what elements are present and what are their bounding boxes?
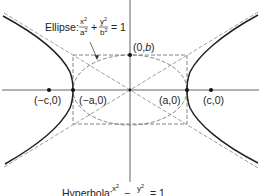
point-pos-c — [209, 88, 213, 92]
label-pos-a: (a,0) — [159, 94, 181, 106]
hyperbola-minus: − — [124, 187, 130, 196]
ellipse-pointer-arrowhead — [95, 55, 100, 60]
point-neg-a — [71, 88, 75, 92]
hyperbola-ellipse-diagram: (−c,0) (−a,0) (a,0) (c,0) (0,b) Ellipse:… — [0, 0, 261, 196]
ellipse-plus: + — [91, 21, 97, 33]
hyperbola-x-numerator: x2 — [112, 183, 119, 193]
point-pos-a — [185, 88, 189, 92]
hyperbola-right-branch — [187, 15, 258, 163]
hyperbola-equals: = 1 — [150, 187, 165, 196]
label-pos-c: (c,0) — [203, 94, 224, 106]
label-neg-a: (−a,0) — [79, 94, 107, 106]
ellipse-equation: Ellipse: x2 a2 + y2 b2 = 1 — [44, 16, 128, 38]
hyperbola-label-prefix: Hyperbola: — [62, 187, 113, 196]
label-pos-b-prefix: (0, — [133, 41, 145, 53]
ellipse-equals: = 1 — [111, 21, 126, 33]
label-pos-b-suffix: ) — [151, 41, 155, 53]
hyperbola-equation: Hyperbola: x2 − y2 = 1 — [62, 183, 165, 196]
point-pos-b — [128, 53, 132, 57]
hyperbola-y-numerator: y2 — [137, 183, 144, 193]
point-center — [129, 89, 132, 92]
label-neg-c: (−c,0) — [34, 94, 61, 106]
ellipse-label-prefix: Ellipse: — [45, 21, 79, 33]
label-pos-b: (0,b) — [133, 41, 155, 53]
point-neg-c — [47, 88, 51, 92]
